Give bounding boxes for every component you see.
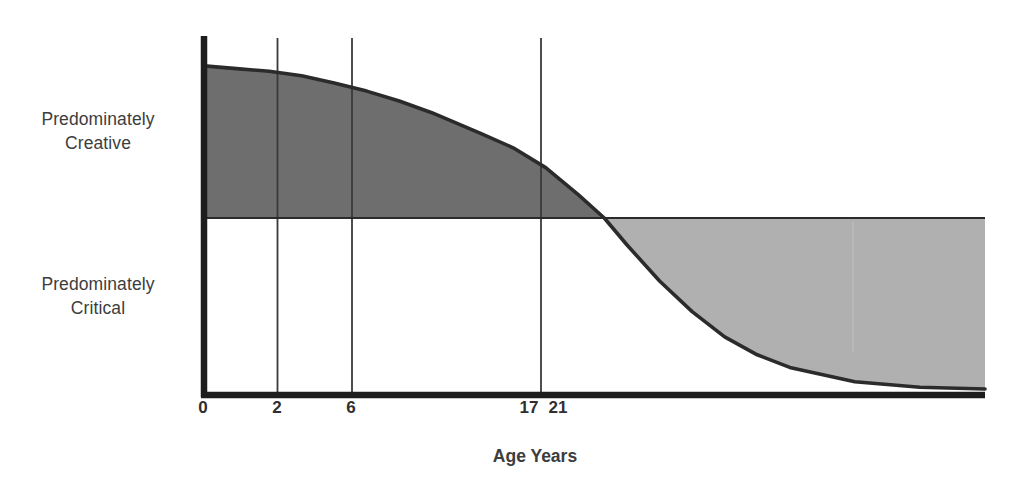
x-tick-label-6: 6 bbox=[331, 398, 371, 418]
x-tick-label-2: 2 bbox=[257, 398, 297, 418]
y-axis-label-creative: Predominately Creative bbox=[8, 108, 188, 155]
x-axis-title: Age Years bbox=[430, 446, 640, 467]
x-tick-label-0: 0 bbox=[183, 398, 223, 418]
y-axis-label-critical: Predominately Critical bbox=[8, 273, 188, 320]
x-tick-label-21: 21 bbox=[538, 398, 578, 418]
creative-critical-chart: Predominately Creative Predominately Cri… bbox=[0, 0, 1017, 485]
